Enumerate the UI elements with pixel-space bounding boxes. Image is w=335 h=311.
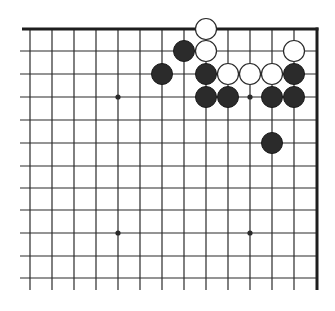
black-stone [218,87,239,108]
star-point-icon [115,230,120,235]
black-stone [152,64,173,85]
white-stone [218,64,239,85]
white-stone [284,41,305,62]
star-point-icon [247,94,252,99]
black-stone [196,64,217,85]
white-stone [196,19,217,40]
black-stone [174,41,195,62]
white-stone [240,64,261,85]
black-stone [284,64,305,85]
black-stone [284,87,305,108]
star-point-icon [115,94,120,99]
black-stone [262,87,283,108]
white-stone [262,64,283,85]
star-point-icon [247,230,252,235]
go-board [0,0,335,311]
go-diagram: Go board corner diagram (top-right) [0,0,335,311]
white-stone [196,41,217,62]
black-stone [262,133,283,154]
black-stone [196,87,217,108]
